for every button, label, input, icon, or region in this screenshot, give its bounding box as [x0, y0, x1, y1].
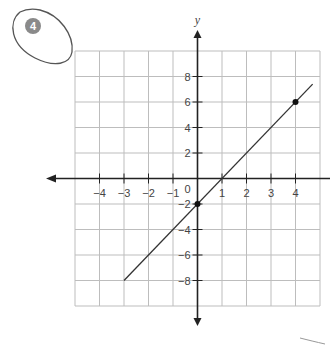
- y-tick-label: −6: [178, 249, 191, 261]
- problem-number-badge: 4: [13, 9, 72, 63]
- y-tick-label: 2: [184, 147, 190, 159]
- x-tick-label: 3: [268, 187, 274, 199]
- x-axis-arrow-icon: [46, 175, 56, 183]
- y-tick-label: 4: [184, 122, 190, 134]
- coordinate-plane: 4 −4−3−2−112348642−2−4−6−80y: [0, 0, 330, 347]
- plotted-line: [124, 84, 313, 280]
- y-axis-down-arrow-icon: [194, 318, 202, 326]
- y-tick-label: −4: [178, 224, 191, 236]
- x-tick-label: −3: [118, 187, 131, 199]
- x-tick-label: −4: [93, 187, 106, 199]
- x-tick-label: 1: [219, 187, 225, 199]
- line-series: [124, 84, 313, 280]
- y-tick-label: 6: [184, 96, 190, 108]
- y-axis-up-arrow-icon: [194, 30, 202, 38]
- data-point: [293, 99, 299, 105]
- y-tick-label: 8: [184, 71, 190, 83]
- x-tick-label: 4: [292, 187, 298, 199]
- y-tick-label: −8: [178, 275, 191, 287]
- x-tick-label: −2: [142, 187, 155, 199]
- hand-drawn-circle-icon: [13, 9, 72, 63]
- problem-number: 4: [30, 20, 37, 32]
- pen-mark: [300, 338, 325, 344]
- origin-label: 0: [184, 183, 190, 195]
- x-tick-label: −1: [167, 187, 180, 199]
- y-axis-label: y: [194, 13, 201, 27]
- y-tick-label: −2: [178, 198, 191, 210]
- data-point: [195, 201, 201, 207]
- x-tick-label: 2: [243, 187, 249, 199]
